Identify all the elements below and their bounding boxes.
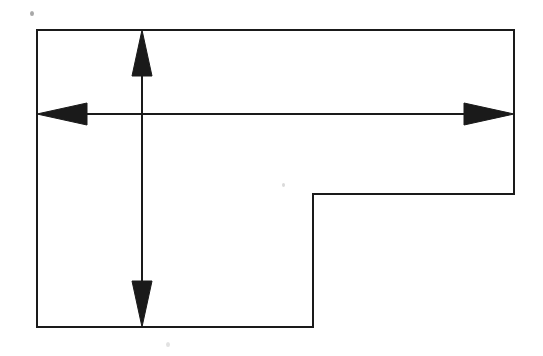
l-shape-dimension-drawing <box>0 0 543 356</box>
width-arrow-head-left-icon <box>37 103 87 125</box>
height-arrow-head-top-icon <box>132 30 152 76</box>
diagram-canvas <box>0 0 543 356</box>
l-shape-outline <box>37 30 514 327</box>
width-dimension-arrow-group <box>37 103 514 125</box>
width-arrow-head-right-icon <box>464 103 514 125</box>
height-arrow-head-bottom-icon <box>132 281 152 327</box>
height-dimension-arrow-group <box>132 30 152 327</box>
